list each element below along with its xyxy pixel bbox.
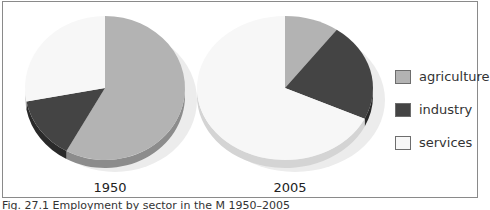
figure-caption: Fig. 27.1 Employment by sector in the M … <box>2 199 290 210</box>
legend-item-services: services <box>395 126 490 159</box>
pie-slice-services <box>25 16 105 101</box>
legend-label: services <box>419 135 472 150</box>
legend: agriculture industry services <box>395 60 490 159</box>
legend-item-agriculture: agriculture <box>395 60 490 93</box>
industry-swatch <box>395 103 411 117</box>
year-label-1950: 1950 <box>70 180 150 195</box>
pie-2005 <box>197 16 385 172</box>
legend-label: industry <box>419 102 472 117</box>
services-swatch <box>395 136 411 150</box>
pie-1950 <box>25 16 197 172</box>
year-label-2005: 2005 <box>250 180 330 195</box>
agriculture-swatch <box>395 70 411 84</box>
legend-label: agriculture <box>419 69 490 84</box>
legend-item-industry: industry <box>395 93 490 126</box>
